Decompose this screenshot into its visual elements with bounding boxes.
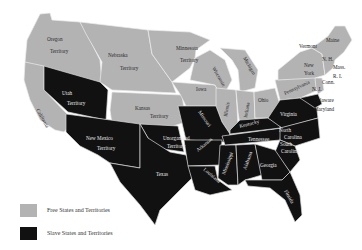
label-new-york-1: New — [304, 62, 314, 68]
label-oregon: Oregon — [47, 36, 63, 42]
label-new-mexico-territory: Territory — [97, 145, 116, 151]
label-georgia: Georgia — [260, 162, 277, 168]
label-virginia: Virginia — [280, 111, 298, 117]
label-minnesota-territory: Territory — [180, 57, 199, 63]
legend-label-free: Free States and Territories — [47, 207, 110, 213]
legend: Free States and Territories Slave States… — [20, 200, 113, 246]
label-north-carolina-1: North — [279, 127, 292, 133]
label-ohio: Ohio — [258, 97, 269, 103]
label-unorganized: Unorganized — [163, 135, 190, 141]
swatch-free — [20, 204, 37, 217]
label-tennessee: Tennessee — [248, 136, 270, 142]
label-north-carolina-2: Carolina — [284, 134, 303, 140]
label-kansas-territory: Territory — [150, 113, 169, 119]
label-utah: Utah — [62, 90, 72, 96]
label-new-york-2: York — [304, 70, 315, 76]
label-new-hampshire: N. H. — [322, 56, 333, 62]
label-kansas: Kansas — [135, 105, 150, 111]
label-nebraska: Nebraska — [108, 52, 128, 58]
label-vermont: Vermont — [299, 43, 317, 49]
label-delaware: Delaware — [314, 97, 335, 103]
label-massachusetts: Mass. — [333, 64, 345, 70]
label-minnesota: Minnesota — [176, 45, 199, 51]
label-oregon-territory: Territory — [50, 48, 69, 54]
label-nebraska-territory: Territory — [120, 65, 139, 71]
label-iowa: Iowa — [196, 86, 207, 92]
label-texas: Texas — [156, 171, 168, 177]
legend-label-slave: Slave States and Territories — [47, 230, 113, 236]
label-new-mexico: New Mexico — [86, 135, 113, 141]
label-unorganized-territory: Territory — [167, 143, 186, 149]
label-south-carolina-2: Carolina — [281, 148, 300, 154]
legend-item-free: Free States and Territories — [20, 200, 113, 220]
label-utah-territory: Territory — [67, 100, 86, 106]
label-south-carolina-1: South — [280, 141, 293, 147]
region-new-york — [278, 48, 325, 80]
label-connecticut: Conn. — [322, 79, 335, 85]
label-maine: Maine — [326, 37, 340, 43]
label-new-jersey: N. J. — [312, 86, 322, 92]
legend-item-slave: Slave States and Territories — [20, 223, 113, 243]
label-maryland: Maryland — [314, 106, 335, 112]
swatch-slave — [20, 227, 37, 240]
